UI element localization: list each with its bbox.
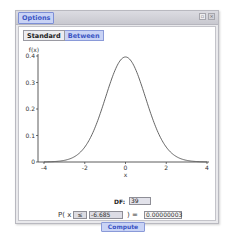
y-axis-label: f(x) [29,46,39,53]
y-tick-label: 0.2 [25,105,35,112]
density-curve [44,57,207,162]
df-row: DF: 39 [19,197,215,206]
x-tick-label: -4 [41,164,47,171]
options-tab[interactable]: Options [18,12,54,24]
operator-button[interactable]: ≤ [73,211,87,219]
y-tick-label: 0.4 [25,52,35,59]
x-tick-label: 2 [164,164,168,171]
df-label: DF: [114,197,125,206]
x-tick-label: -2 [82,164,88,171]
probability-label: P( x [58,210,71,220]
title-bar[interactable]: Options ▫ × [16,11,218,25]
bound-input[interactable]: -6.685 [89,211,123,219]
df-input[interactable]: 39 [129,197,151,205]
y-tick-label: 0.1 [25,132,35,139]
x-axis-label: x [124,171,128,178]
close-icon[interactable]: × [208,13,215,20]
result-field[interactable]: 0.00000003 [144,211,182,219]
restore-icon[interactable]: ▫ [199,13,206,20]
x-tick-label: 0 [124,164,128,171]
equals-label: ) = [127,210,138,220]
density-plot: 00.10.20.30.4-4-2024f(x)x [19,27,217,195]
compute-button[interactable]: Compute [101,222,145,232]
probability-calculator-window: Options ▫ × Standard Between 00.10.20.30… [15,10,219,224]
y-tick-label: 0 [31,158,35,165]
x-tick-label: 4 [205,164,209,171]
probability-row: P( x ≤ -6.685 ) = 0.00000003 [19,210,215,220]
y-tick-label: 0.3 [25,79,35,86]
calculator-panel: Standard Between 00.10.20.30.4-4-2024f(x… [18,26,216,221]
